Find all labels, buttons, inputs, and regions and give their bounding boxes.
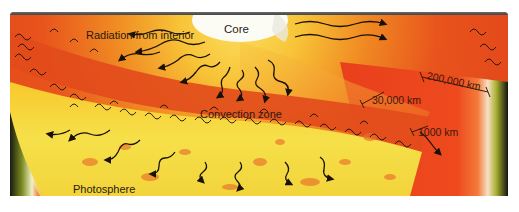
dimension-label-1000km: 1000 km bbox=[418, 127, 458, 138]
sun-cutaway-svg bbox=[10, 12, 508, 196]
dimension-label-30000km: 30,000 km bbox=[372, 95, 421, 106]
radiation-label: Radiation from interior bbox=[86, 30, 194, 41]
photosphere-label: Photosphere bbox=[73, 184, 135, 195]
frame-top-edge bbox=[10, 12, 508, 15]
sun-cutaway-illustration: Core Radiation from interior Convection … bbox=[10, 12, 508, 196]
core-label: Core bbox=[224, 24, 249, 36]
convection-zone-label: Convection zone bbox=[200, 109, 282, 120]
